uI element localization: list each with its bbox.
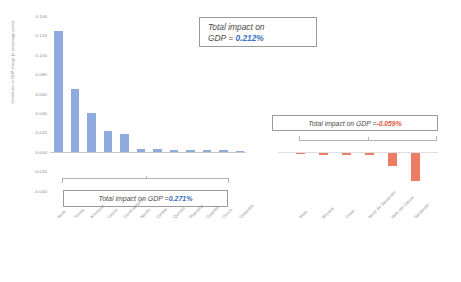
x-label-narino: Nariño [139, 207, 151, 219]
x-label-meta: Meta [298, 209, 308, 219]
positive-bars-plot [50, 32, 246, 152]
callout-right-value: -0.059% [376, 120, 401, 127]
y-tick-label: 0.140 [17, 14, 47, 19]
y-tick-label: 0.040 [17, 111, 47, 116]
callout-overall-value: 0.212% [235, 33, 263, 43]
x-label-valle-del-cauca: Valle del Cauca [390, 195, 415, 220]
y-tick-label: 0.020 [17, 130, 47, 135]
y-tick-label: -0.020 [17, 169, 47, 174]
x-label-quindio: Quindío [172, 205, 186, 219]
callout-left-value: 0.271% [169, 195, 193, 202]
x-label-boyaca: Boyacá [321, 206, 335, 220]
bar-antioquia [87, 113, 96, 152]
right-chart-baseline [278, 152, 438, 153]
y-tick-label: 0.080 [17, 72, 47, 77]
bar-tolima [71, 89, 80, 152]
x-label-santander: Santander [413, 202, 431, 220]
x-label-caldas: Caldas [155, 207, 168, 220]
y-axis-title: Contribution to GDP change (in percentag… [11, 0, 15, 127]
x-label-choco: Chocó [221, 207, 233, 219]
y-tick-label: -0.040 [17, 188, 47, 193]
bar-santander [411, 152, 420, 181]
y-tick-label: 0.060 [17, 91, 47, 96]
y-tick-label: 0.100 [17, 52, 47, 57]
left-chart-baseline [50, 152, 246, 153]
x-label-casanare: Casanare [238, 203, 255, 220]
negative-bars-plot [278, 152, 438, 198]
x-label-cauca: Cauca [106, 207, 118, 219]
total-impact-negative-callout: Total impact on GDP = -0.059% [272, 115, 438, 131]
x-label-tolima: Tolima [73, 207, 85, 219]
total-impact-overall-callout: Total impact on GDP = 0.212% [199, 17, 317, 47]
x-label-huila: Huila [56, 209, 66, 219]
callout-line2-prefix: GDP = [208, 33, 235, 43]
bar-cauca [104, 131, 113, 151]
callout-line1: Total impact on [208, 22, 265, 32]
right-group-bracket [299, 136, 437, 143]
bar-valle-del-cauca [388, 152, 397, 166]
bar-huila [54, 31, 63, 152]
total-impact-positive-callout: Total impact on GDP = 0.271% [63, 190, 228, 207]
left-group-bracket [62, 176, 229, 183]
y-tick-label: 0.000 [17, 149, 47, 154]
callout-left-label: Total impact on GDP = [99, 195, 169, 202]
callout-right-label: Total impact on GDP = [308, 120, 376, 127]
y-tick-label: 0.120 [17, 33, 47, 38]
bar-cundinamarca [120, 134, 129, 152]
x-label-cesar: Cesar [344, 208, 356, 220]
chart-figure: Contribution to GDP change (in percentag… [0, 0, 461, 282]
